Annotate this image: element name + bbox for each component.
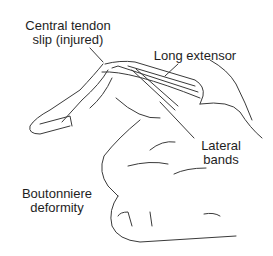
label-line: Lateral (196, 139, 246, 153)
label-line: Central tendon (18, 19, 118, 33)
label-line: deformity (14, 201, 100, 215)
label-boutonniere-deformity: Boutonniere deformity (14, 187, 100, 215)
boutonniere-diagram: Central tendon slip (injured) Long exten… (0, 0, 273, 256)
label-central-tendon-slip: Central tendon slip (injured) (18, 19, 118, 47)
label-line: Long extensor (146, 49, 244, 63)
label-long-extensor: Long extensor (146, 49, 244, 63)
leader-central-tendon (90, 48, 103, 62)
label-line: Boutonniere (14, 187, 100, 201)
label-line: bands (196, 153, 246, 167)
leader-lateral-bands (160, 102, 194, 138)
label-lateral-bands: Lateral bands (196, 139, 246, 167)
label-line: slip (injured) (18, 33, 118, 47)
